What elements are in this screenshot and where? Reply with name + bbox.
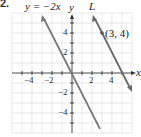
x-tick-neg2: −2 bbox=[44, 75, 54, 85]
y-tick-2: 2 bbox=[63, 47, 68, 57]
x-axis-label: x bbox=[136, 66, 141, 78]
y-axis-label: y bbox=[69, 1, 74, 13]
line1-label: y = −2x bbox=[25, 0, 61, 12]
y-tick-neg4: −4 bbox=[58, 107, 68, 117]
y-tick-neg2: −2 bbox=[58, 87, 68, 97]
y-axis-arrow-icon bbox=[70, 14, 74, 19]
line2-arrow-end-icon bbox=[127, 85, 132, 92]
coordinate-plane bbox=[0, 0, 141, 137]
x-tick-4: 4 bbox=[109, 75, 114, 85]
line2-label: L bbox=[89, 0, 95, 12]
y-tick-4: 4 bbox=[63, 27, 68, 37]
x-tick-2: 2 bbox=[89, 75, 94, 85]
point-3-4-marker bbox=[100, 31, 104, 35]
x-tick-neg4: −4 bbox=[24, 75, 34, 85]
point-label: (3, 4) bbox=[105, 27, 129, 39]
line-y-neg2x bbox=[41, 15, 100, 129]
